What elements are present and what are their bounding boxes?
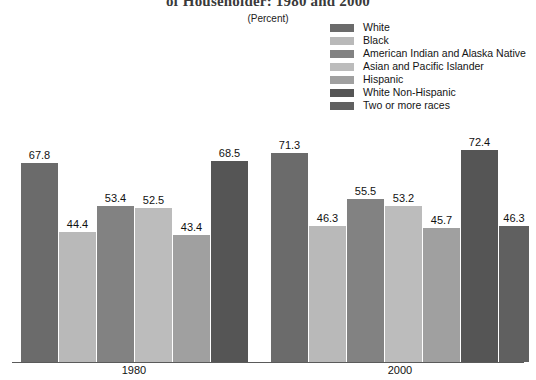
- x-axis-line: [12, 362, 524, 363]
- bar-value-label: 72.4: [455, 136, 504, 148]
- bar: [347, 199, 384, 362]
- x-axis-group-label: 2000: [370, 364, 430, 376]
- bar-value-label: 44.4: [53, 218, 102, 230]
- bar-value-label: 71.3: [265, 139, 314, 151]
- bar-value-label: 45.7: [417, 214, 466, 226]
- bar: [97, 206, 134, 362]
- bar: [21, 163, 58, 362]
- bar-value-label: 46.3: [493, 212, 535, 224]
- plot-area: 67.844.453.452.543.468.571.346.355.553.2…: [0, 0, 536, 380]
- bar-value-label: 46.3: [303, 212, 352, 224]
- bar-value-label: 43.4: [167, 221, 216, 233]
- x-axis-group-label: 1980: [104, 364, 164, 376]
- bar-value-label: 52.5: [129, 194, 178, 206]
- bar: [309, 226, 346, 362]
- bar: [499, 226, 529, 362]
- bar: [211, 161, 248, 362]
- bar-value-label: 67.8: [15, 149, 64, 161]
- bar: [173, 235, 210, 362]
- bar: [461, 150, 498, 362]
- bar: [59, 232, 96, 362]
- bar: [423, 228, 460, 362]
- bar-value-label: 53.2: [379, 192, 428, 204]
- bar: [271, 153, 308, 362]
- bar: [385, 206, 422, 362]
- chart-figure: of Householder: 1980 and 2000 (Percent) …: [0, 0, 536, 380]
- bar-value-label: 68.5: [205, 147, 254, 159]
